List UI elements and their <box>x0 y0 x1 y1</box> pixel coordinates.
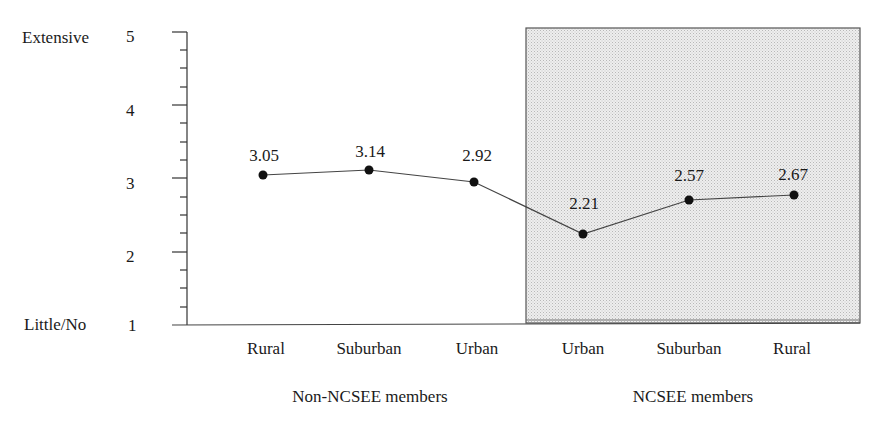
y-label-high: Extensive <box>22 28 89 48</box>
x-category-label: Suburban <box>656 339 721 359</box>
y-tick-2: 2 <box>126 247 135 267</box>
y-tick-1: 1 <box>128 316 137 336</box>
value-label: 2.92 <box>462 146 492 166</box>
chart-canvas <box>0 0 878 431</box>
value-label: 2.21 <box>569 194 599 214</box>
y-label-low: Little/No <box>24 315 86 335</box>
group-label-non-ncsee: Non-NCSEE members <box>292 387 447 407</box>
value-label: 2.57 <box>674 166 704 186</box>
value-label: 3.14 <box>355 142 385 162</box>
x-category-label: Rural <box>247 339 285 359</box>
y-tick-5: 5 <box>126 27 135 47</box>
x-category-label: Rural <box>773 339 811 359</box>
y-tick-3: 3 <box>126 174 135 194</box>
y-tick-4: 4 <box>126 101 135 121</box>
y-axis <box>172 32 187 325</box>
x-category-label: Urban <box>456 339 498 359</box>
value-label: 2.67 <box>778 165 808 185</box>
value-label: 3.05 <box>249 146 279 166</box>
group-label-ncsee: NCSEE members <box>633 387 753 407</box>
x-axis <box>172 323 860 325</box>
x-category-label: Urban <box>562 339 604 359</box>
x-category-label: Suburban <box>336 339 401 359</box>
